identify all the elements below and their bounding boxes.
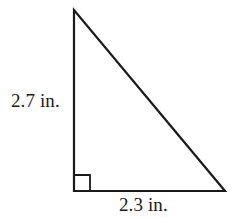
horizontal-leg-label: 2.3 in. (119, 195, 168, 214)
right-angle-icon (74, 175, 90, 191)
triangle-outline (74, 10, 225, 191)
vertical-leg-label: 2.7 in. (11, 91, 60, 110)
right-triangle-figure: 2.7 in. 2.3 in. (0, 0, 233, 218)
